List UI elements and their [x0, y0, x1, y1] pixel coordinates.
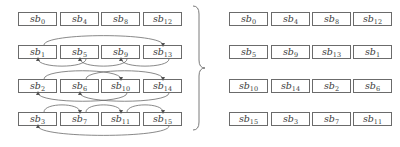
arrow-sb7-to-sb11 — [86, 105, 121, 112]
arrow-sb9-to-sb5 — [80, 59, 127, 66]
arrow-sb15-to-sb3 — [38, 126, 169, 135]
arrow-sb1-to-sb13 — [44, 36, 163, 45]
arrow-sb10-to-sb2 — [38, 93, 127, 101]
rotation-arrows — [38, 36, 169, 136]
curly-brace — [193, 6, 205, 130]
arrow-sb14-to-sb6 — [80, 93, 169, 101]
arrow-sb3-to-sb7 — [44, 105, 80, 112]
arrow-sb6-to-sb14 — [86, 71, 163, 79]
arrow-sb11-to-sb15 — [127, 105, 163, 112]
arrow-sb5-to-sb1 — [38, 59, 86, 66]
arrow-sb2-to-sb10 — [44, 71, 121, 79]
arrow-sb13-to-sb9 — [121, 59, 169, 66]
arrows-layer — [0, 0, 400, 147]
